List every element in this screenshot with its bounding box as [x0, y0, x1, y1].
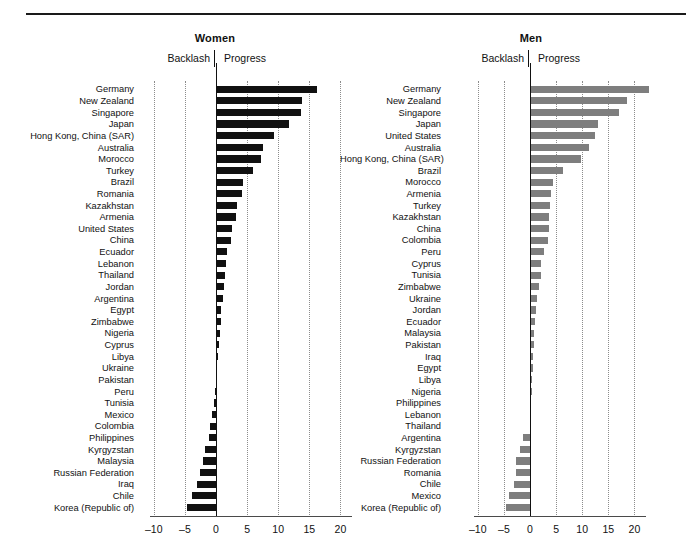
category-label: Jordan — [340, 306, 441, 315]
category-label: Thailand — [0, 271, 134, 280]
bar — [531, 272, 541, 279]
gridline — [278, 81, 280, 517]
bar — [520, 446, 530, 453]
bar — [217, 318, 221, 325]
category-label: Germany — [0, 85, 134, 94]
category-label: Libya — [0, 353, 134, 362]
bar — [217, 353, 218, 360]
bar — [217, 225, 232, 232]
x-axis-baseline — [474, 516, 647, 517]
panel-men: MenBacklashProgressGermanyNew ZealandSin… — [340, 0, 695, 558]
figure-root: WomenBacklashProgressGermanyNew ZealandS… — [0, 0, 695, 558]
bar — [209, 434, 216, 441]
category-label: Japan — [340, 120, 441, 129]
category-label: Romania — [0, 190, 134, 199]
backlash-label-men: Backlash — [394, 52, 524, 64]
x-tick-label: 20 — [614, 523, 654, 535]
bar — [217, 202, 237, 209]
bar — [217, 120, 289, 127]
category-label: United States — [340, 132, 441, 141]
category-label: Korea (Republic of) — [0, 504, 134, 513]
bar — [531, 248, 544, 255]
category-label: Zimbabwe — [340, 283, 441, 292]
category-label: Libya — [340, 376, 441, 385]
bar — [197, 481, 216, 488]
bar — [217, 341, 219, 348]
bar — [217, 260, 226, 267]
bar — [531, 318, 535, 325]
bar — [531, 388, 532, 395]
category-label: Malaysia — [0, 457, 134, 466]
bar — [531, 109, 619, 116]
bar — [214, 399, 216, 406]
bar — [531, 179, 553, 186]
category-label: Colombia — [0, 422, 134, 431]
bar — [531, 295, 537, 302]
bar — [217, 97, 302, 104]
progress-label-women: Progress — [224, 52, 354, 64]
bar — [217, 109, 301, 116]
category-label: Hong Kong, China (SAR) — [340, 155, 441, 164]
bar — [217, 248, 227, 255]
category-label: Tunisia — [340, 271, 441, 280]
bar — [531, 213, 549, 220]
bar — [192, 492, 216, 499]
category-label: Brazil — [340, 167, 441, 176]
category-label: Kazakhstan — [0, 202, 134, 211]
gridline — [504, 81, 506, 517]
category-label: New Zealand — [340, 97, 441, 106]
bar — [217, 132, 274, 139]
bar — [217, 144, 263, 151]
category-label: Peru — [0, 388, 134, 397]
panel-title-men: Men — [466, 32, 596, 44]
category-label: Zimbabwe — [0, 318, 134, 327]
category-label: Brazil — [0, 178, 134, 187]
bar — [217, 283, 224, 290]
category-label: China — [340, 225, 441, 234]
category-label: New Zealand — [0, 97, 134, 106]
panel-women: WomenBacklashProgressGermanyNew ZealandS… — [0, 0, 340, 558]
bar — [531, 306, 536, 313]
bar — [516, 469, 530, 476]
category-label: Korea (Republic of) — [340, 504, 441, 513]
bar — [531, 364, 533, 371]
category-label: Peru — [340, 248, 441, 257]
direction-divider-men — [528, 50, 529, 67]
gridline — [154, 81, 156, 517]
gridline — [478, 81, 480, 517]
bar — [531, 353, 533, 360]
category-label: Mexico — [340, 492, 441, 501]
gridline — [309, 81, 311, 517]
category-label: Japan — [0, 120, 134, 129]
category-label: China — [0, 236, 134, 245]
gridline — [185, 81, 187, 517]
category-label: Jordan — [0, 283, 134, 292]
category-label: Pakistan — [340, 341, 441, 350]
bar — [212, 411, 216, 418]
bar — [217, 213, 236, 220]
category-label: Cyprus — [340, 260, 441, 269]
bar — [187, 504, 216, 511]
category-label: Kyrgyzstan — [0, 446, 134, 455]
bar — [514, 481, 530, 488]
category-label: Argentina — [340, 434, 441, 443]
category-label: Singapore — [340, 109, 441, 118]
bar — [217, 167, 253, 174]
bar — [531, 190, 551, 197]
category-label: Cyprus — [0, 341, 134, 350]
panel-title-women: Women — [150, 32, 280, 44]
bar — [516, 457, 530, 464]
category-label: Ecuador — [340, 318, 441, 327]
category-label: United States — [0, 225, 134, 234]
bar — [531, 341, 534, 348]
category-label: Armenia — [340, 190, 441, 199]
category-label: Russian Federation — [340, 457, 441, 466]
bar — [531, 86, 649, 93]
bar — [531, 132, 595, 139]
category-label: Colombia — [340, 236, 441, 245]
bar — [531, 225, 549, 232]
category-label: Philippines — [0, 434, 134, 443]
category-label: Chile — [0, 492, 134, 501]
category-label: Lebanon — [340, 411, 441, 420]
bar — [217, 295, 223, 302]
